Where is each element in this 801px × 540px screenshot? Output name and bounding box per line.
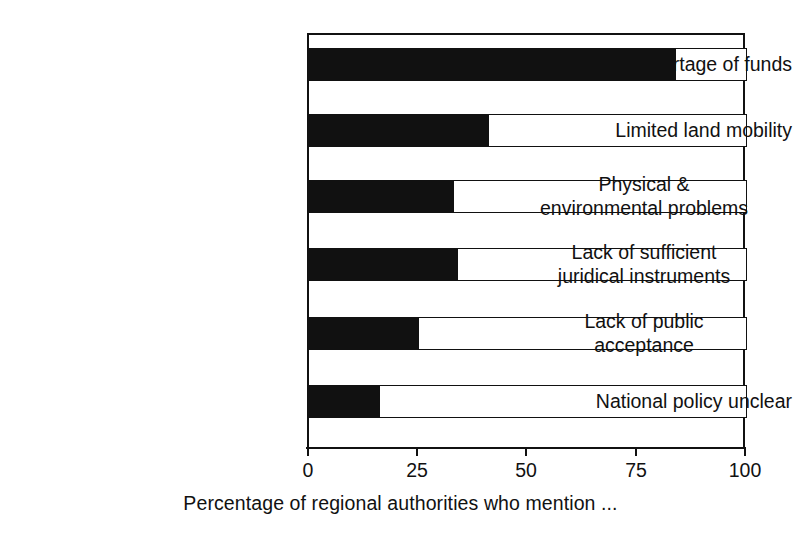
x-tick-label-25: 25 (387, 459, 447, 481)
x-tick-label-50: 50 (496, 459, 556, 481)
category-label-lack-of-sufficient-juridical-instruments: Lack of sufficient juridical instruments (501, 240, 801, 288)
bar-fill-lack-of-sufficient-juridical-instruments (310, 249, 458, 280)
x-axis-title: Percentage of regional authorities who m… (0, 492, 801, 515)
category-label-national-policy-unclear: National policy unclear (501, 389, 801, 413)
bar-fill-limited-land-mobility (310, 115, 489, 146)
x-tick-label-75: 75 (606, 459, 666, 481)
x-tick-mark-75 (635, 447, 637, 456)
category-label-lack-of-public-acceptance: Lack of public acceptance (501, 309, 801, 357)
x-tick-mark-50 (525, 447, 527, 456)
bar-fill-lack-of-public-acceptance (310, 318, 419, 349)
bar-fill-national-policy-unclear (310, 386, 380, 417)
x-tick-mark-0 (307, 447, 309, 456)
bar-fill-physical-environmental-problems (310, 181, 454, 212)
x-tick-label-100: 100 (715, 459, 775, 481)
bar-chart-figure: Shortage of funds Limited land mobility … (0, 0, 801, 540)
category-label-shortage-of-funds: Shortage of funds (501, 52, 801, 76)
x-tick-mark-25 (416, 447, 418, 456)
x-tick-mark-100 (744, 447, 746, 456)
x-tick-label-0: 0 (278, 459, 338, 481)
category-label-limited-land-mobility: Limited land mobility (501, 118, 801, 142)
category-label-physical-environmental-problems: Physical & environmental problems (501, 172, 801, 220)
